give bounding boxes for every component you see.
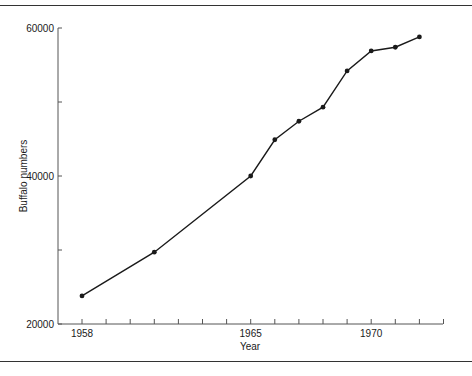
data-point-marker xyxy=(393,45,398,50)
data-point-marker xyxy=(80,293,85,298)
data-point-marker xyxy=(321,105,326,110)
data-point-marker xyxy=(417,34,422,39)
data-point-marker xyxy=(272,137,277,142)
x-tick-label: 1965 xyxy=(240,328,263,339)
line-chart: Buffalo numbers 200004000060000 Year 195… xyxy=(0,0,472,376)
x-tick-label: 1958 xyxy=(71,328,94,339)
y-tick-label: 40000 xyxy=(26,171,54,182)
x-axis-label: Year xyxy=(240,341,261,352)
x-tick-label: 1970 xyxy=(360,328,383,339)
data-series xyxy=(80,34,422,298)
data-point-marker xyxy=(345,69,350,74)
y-axis: Buffalo numbers 200004000060000 xyxy=(18,23,62,330)
y-tick-label: 60000 xyxy=(26,23,54,34)
data-point-marker xyxy=(297,119,302,124)
x-axis: Year 195819651970 xyxy=(58,319,444,352)
data-point-marker xyxy=(152,250,157,255)
data-point-marker xyxy=(369,49,374,54)
data-point-marker xyxy=(248,174,253,179)
y-tick-label: 20000 xyxy=(26,319,54,330)
series-line xyxy=(82,37,419,296)
